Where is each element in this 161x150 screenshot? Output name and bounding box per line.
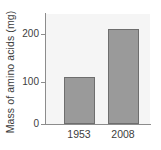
- y-tick-mark-200: [41, 34, 46, 35]
- y-axis-line: [45, 13, 46, 125]
- x-axis-line: [45, 124, 151, 125]
- bar-2008: [108, 29, 139, 124]
- x-tick-label-1953: 1953: [56, 128, 102, 140]
- y-tick-mark-100: [41, 82, 46, 83]
- bar-1953: [64, 77, 95, 124]
- y-tick-label-100: 100: [5, 77, 39, 87]
- bar-chart: Mass of amino acids (mg) 200 100 0 1953 …: [0, 0, 161, 150]
- x-tick-label-2008: 2008: [100, 128, 146, 140]
- y-tick-label-200: 200: [5, 29, 39, 39]
- y-tick-mark-0: [41, 124, 46, 125]
- y-tick-label-0: 0: [5, 119, 39, 129]
